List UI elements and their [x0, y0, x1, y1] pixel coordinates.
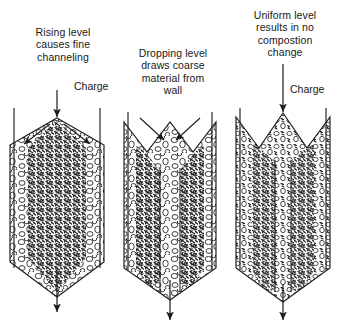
vessel-uniform-level [236, 64, 330, 320]
vessel-diagrams [0, 0, 343, 332]
vessel-dropping-level [124, 112, 216, 320]
vessel-rising-level [10, 90, 104, 312]
figure-canvas: Rising level causes fine channeling Drop… [0, 0, 343, 332]
flow-arrow-right-panel-2 [176, 118, 200, 140]
flow-arrow-left-panel-2 [140, 118, 164, 140]
